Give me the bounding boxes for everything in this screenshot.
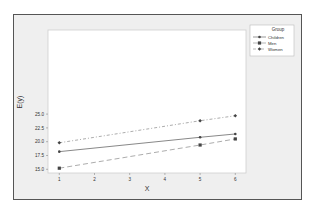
legend-label: Children [268, 35, 285, 40]
y-tick-label: 17.5 [35, 153, 44, 158]
data-point [234, 137, 237, 140]
x-tick-label: 2 [93, 177, 96, 182]
legend-title: Group [272, 27, 285, 32]
data-point [234, 133, 237, 136]
data-point [58, 150, 61, 153]
x-tick-label: 1 [58, 177, 61, 182]
legend-label: Women [268, 47, 283, 52]
x-tick-label: 6 [234, 177, 237, 182]
x-tick-label: 3 [128, 177, 131, 182]
y-tick-label: 15.0 [35, 167, 44, 172]
legend-marker [258, 41, 261, 44]
x-tick-label: 4 [164, 177, 167, 182]
y-tick-label: 25.0 [35, 112, 44, 117]
legend-label: Men [268, 41, 277, 46]
legend-marker [258, 36, 261, 39]
line-chart: 15.017.520.022.525.0 123456 E(y) X Group… [0, 0, 311, 211]
plot-area [48, 30, 246, 173]
data-point [199, 136, 202, 139]
data-point [58, 167, 61, 170]
data-point [199, 143, 202, 146]
y-axis: 15.017.520.022.525.0 [35, 112, 48, 172]
x-tick-label: 5 [199, 177, 202, 182]
y-axis-label: E(y) [16, 96, 24, 109]
x-axis: 123456 [58, 173, 237, 182]
y-tick-label: 22.5 [35, 126, 44, 131]
y-tick-label: 20.0 [35, 139, 44, 144]
legend: Group ChildrenMenWomen [250, 25, 294, 56]
x-axis-label: X [145, 185, 150, 192]
